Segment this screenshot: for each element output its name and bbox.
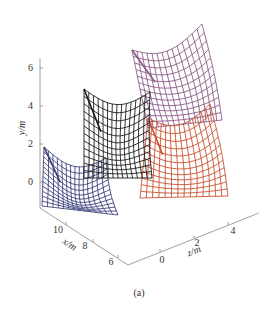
x-axis-label: x/m: [60, 235, 79, 253]
mesh-surface-3: [132, 24, 222, 128]
x-axis-line: [40, 208, 128, 265]
z-axis-line: [128, 213, 259, 265]
y-axis-label: y/m: [16, 121, 27, 136]
x-tick-10: 10: [53, 224, 63, 235]
figure-3d-mesh-plot: 6 4 2 0 y/m 10 8 6 x/m 0 2 4 z/m (a): [0, 0, 277, 314]
y-tick-2: 2: [28, 138, 33, 149]
x-tick-8: 8: [83, 240, 88, 251]
x-tick-6: 6: [109, 256, 114, 267]
mesh-surface-1: [42, 147, 118, 215]
y-axis-ticks: 6 4 2 0: [28, 62, 33, 187]
y-tick-4: 4: [28, 100, 33, 111]
mesh-surfaces: [42, 24, 228, 215]
mesh-surface-2: [84, 89, 152, 178]
figure-caption: (a): [133, 287, 144, 299]
z-tick-4: 4: [231, 225, 236, 236]
y-tick-6: 6: [28, 62, 33, 73]
y-tick-0: 0: [28, 176, 33, 187]
z-axis-label: z/m: [184, 243, 202, 258]
z-tick-0: 0: [160, 254, 165, 265]
